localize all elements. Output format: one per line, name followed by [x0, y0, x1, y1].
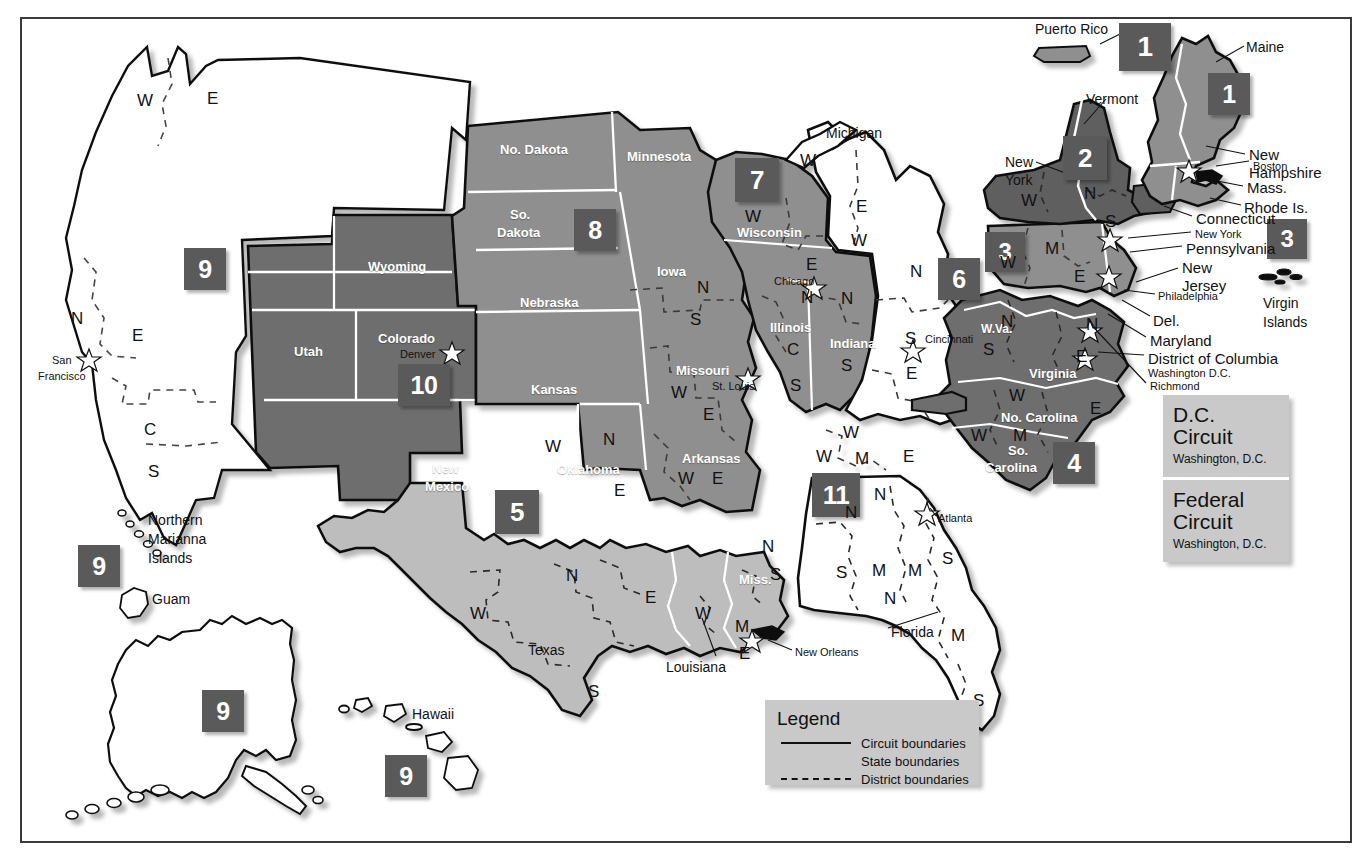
map-border-frame	[20, 17, 1352, 843]
judicial-circuits-map: 112334567899991011 No. DakotaMinnesotaSo…	[0, 0, 1372, 858]
